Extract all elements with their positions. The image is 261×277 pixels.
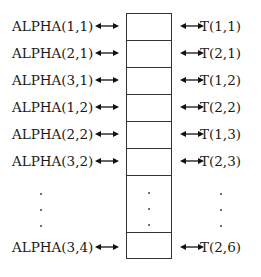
- left-label: ALPHA(1,1): [12, 18, 93, 34]
- right-label: T(2,6): [200, 239, 241, 255]
- double-arrow-icon: [95, 156, 119, 166]
- double-arrow-icon: [95, 48, 119, 58]
- right-label: T(2,2): [200, 99, 241, 115]
- left-label: ALPHA(2,1): [12, 45, 93, 61]
- left-label: ALPHA(2,2): [12, 126, 93, 142]
- ellipsis-dot: [220, 193, 222, 195]
- right-label: T(1,2): [200, 72, 241, 88]
- double-arrow-icon: [95, 21, 119, 31]
- ellipsis-dot: [40, 225, 42, 227]
- cell-divider: [127, 94, 171, 95]
- left-label: ALPHA(3,1): [12, 72, 93, 88]
- double-arrow-icon: [180, 102, 204, 112]
- cell-divider: [127, 175, 171, 176]
- double-arrow-icon: [180, 21, 204, 31]
- left-label: ALPHA(3,2): [12, 153, 93, 169]
- double-arrow-icon: [180, 156, 204, 166]
- cell-divider: [127, 232, 171, 233]
- right-label: T(2,3): [200, 153, 241, 169]
- double-arrow-icon: [95, 75, 119, 85]
- cell-divider: [127, 40, 171, 41]
- double-arrow-icon: [180, 75, 204, 85]
- cell-divider: [127, 121, 171, 122]
- ellipsis-dot: [220, 225, 222, 227]
- ellipsis-dot: [148, 192, 150, 194]
- ellipsis-dot: [40, 193, 42, 195]
- double-arrow-icon: [180, 129, 204, 139]
- storage-cells: [126, 13, 172, 259]
- double-arrow-icon: [95, 129, 119, 139]
- right-label: T(2,1): [200, 45, 241, 61]
- right-label: T(1,1): [200, 18, 241, 34]
- double-arrow-icon: [180, 48, 204, 58]
- ellipsis-dot: [40, 209, 42, 211]
- double-arrow-icon: [95, 102, 119, 112]
- double-arrow-icon: [180, 242, 204, 252]
- cell-divider: [127, 148, 171, 149]
- left-label: ALPHA(3,4): [12, 239, 93, 255]
- ellipsis-dot: [220, 209, 222, 211]
- ellipsis-dot: [148, 224, 150, 226]
- cell-divider: [127, 67, 171, 68]
- left-label: ALPHA(1,2): [12, 99, 93, 115]
- double-arrow-icon: [95, 242, 119, 252]
- right-label: T(1,3): [200, 126, 241, 142]
- ellipsis-dot: [148, 208, 150, 210]
